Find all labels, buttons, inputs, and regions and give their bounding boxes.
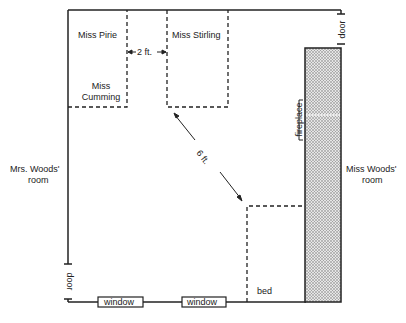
label-miss-woods-room-2: room — [362, 175, 383, 186]
label-mrs-woods-room-1: Mrs. Woods' — [10, 164, 60, 175]
label-window-1: window — [104, 297, 134, 308]
label-door-top: door — [337, 20, 348, 38]
label-door-left: door — [64, 272, 75, 290]
label-window-2: window — [187, 297, 217, 308]
label-miss-cumming-2: Cumming — [78, 92, 124, 103]
fireplace-block — [305, 48, 341, 302]
label-mrs-woods-room-2: room — [28, 175, 49, 186]
label-bed: bed — [257, 286, 272, 297]
label-miss-woods-room-1: Miss Woods' — [346, 164, 397, 175]
bed-outlines — [68, 10, 303, 302]
label-miss-pirie: Miss Pirie — [78, 30, 117, 41]
label-miss-cumming-1: Miss — [80, 81, 122, 92]
label-fireplace: fireplace — [294, 102, 305, 136]
label-gap: 2 ft. — [137, 47, 152, 58]
label-miss-stirling: Miss Stirling — [172, 30, 221, 41]
